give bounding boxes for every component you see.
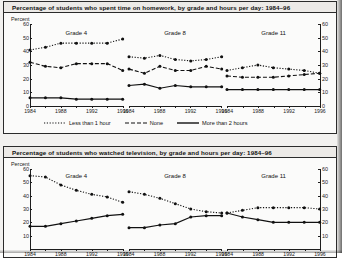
legend-label: Less than 1 hour	[69, 120, 111, 126]
data-point	[106, 98, 109, 101]
data-point	[272, 206, 275, 209]
data-point	[272, 66, 275, 69]
data-point	[257, 206, 260, 209]
data-point	[127, 190, 130, 193]
data-point	[75, 220, 78, 223]
y-axis-tick-label: 40	[23, 193, 29, 199]
y-axis-tick-label-right: 10	[322, 89, 328, 95]
data-point	[143, 193, 146, 196]
data-point	[226, 88, 229, 91]
legend-item: Less than 1 hour	[44, 120, 111, 126]
y-axis-tick-label: 20	[23, 76, 29, 82]
x-axis-tick-label: 1988	[154, 108, 166, 114]
data-point	[226, 212, 229, 215]
data-point	[29, 61, 32, 64]
data-point	[173, 69, 176, 72]
data-point	[204, 210, 207, 213]
x-axis-tick-mark	[243, 106, 244, 108]
data-point	[127, 226, 130, 229]
data-point	[288, 74, 291, 77]
data-point	[303, 88, 306, 91]
legend-swatch-solid	[177, 120, 199, 126]
data-point	[257, 76, 260, 79]
data-point	[303, 206, 306, 209]
y-axis-tick-label-right: 50	[322, 35, 328, 41]
data-point	[257, 64, 260, 67]
data-point	[303, 221, 306, 224]
data-point	[75, 62, 78, 65]
data-point	[220, 212, 223, 215]
data-point	[59, 66, 62, 69]
data-point	[204, 85, 207, 88]
data-point	[121, 38, 124, 41]
series-group	[30, 169, 123, 249]
y-axis-tick-label-right: 50	[322, 179, 328, 185]
scan-bottom-shadow	[0, 250, 342, 253]
data-point	[173, 222, 176, 225]
data-point	[257, 218, 260, 221]
series-group	[129, 24, 222, 106]
series-line-more-than-2-hours	[129, 216, 222, 228]
x-axis-tick-mark	[76, 106, 77, 108]
x-axis-tick-mark	[45, 106, 46, 108]
data-point	[272, 88, 275, 91]
data-point	[288, 206, 291, 209]
data-point	[121, 201, 124, 204]
x-axis-tick-label: 1988	[252, 108, 264, 114]
x-axis-tick-label: 1988	[55, 108, 67, 114]
series-group	[227, 24, 320, 106]
data-point	[106, 62, 109, 65]
y-axis-tick-label-right: 20	[322, 76, 328, 82]
x-axis-tick-mark	[305, 106, 306, 108]
data-point	[226, 74, 229, 77]
data-point	[173, 58, 176, 61]
data-point	[44, 176, 47, 179]
y-axis-tick-label-right: 60	[322, 21, 328, 27]
data-point	[288, 88, 291, 91]
data-point	[204, 65, 207, 68]
data-point	[44, 46, 47, 49]
data-point	[29, 96, 32, 99]
panel-grade-8: Grade 81984198819921996	[129, 169, 222, 249]
x-axis-tick-label: 1996	[314, 108, 326, 114]
series-group	[30, 24, 123, 106]
legend-swatch-dashed	[125, 120, 147, 126]
y-axis-tick-label: 20	[23, 219, 29, 225]
scan-edge-shadow	[337, 0, 342, 253]
data-point	[158, 224, 161, 227]
y-axis-tick-label: 10	[23, 89, 29, 95]
data-point	[44, 65, 47, 68]
figure-homework-plot: 01020304050600102030405060Grade 41984198…	[30, 24, 320, 106]
data-point	[241, 88, 244, 91]
y-axis-tick-label-right: 20	[322, 219, 328, 225]
y-axis-tick-label-right: 30	[322, 62, 328, 68]
data-point	[121, 213, 124, 216]
data-point	[241, 209, 244, 212]
panel-grade-4: Grade 41984198819921996	[30, 169, 123, 249]
y-axis-tick-label-right: 40	[322, 48, 328, 54]
data-point	[44, 96, 47, 99]
data-point	[90, 193, 93, 196]
data-point	[318, 88, 321, 91]
y-axis-tick-label: 50	[23, 35, 29, 41]
figure-television: Percentage of students who watched telev…	[3, 146, 337, 258]
y-axis-tick-label-right: 40	[322, 193, 328, 199]
data-point	[220, 68, 223, 71]
data-point	[106, 196, 109, 199]
data-point	[303, 73, 306, 76]
x-axis-tick-label: 1992	[86, 108, 98, 114]
legend-swatch-dotted	[44, 120, 66, 126]
data-point	[121, 98, 124, 101]
panel-grade-8: Grade 81984198819921996	[129, 24, 222, 106]
data-point	[158, 65, 161, 68]
data-point	[318, 208, 321, 211]
data-point	[75, 42, 78, 45]
y-axis-tick-label: 60	[23, 21, 29, 27]
x-axis-tick-label: 1984	[222, 108, 234, 114]
panel-grade-4: Grade 41984198819921996	[30, 24, 123, 106]
data-point	[59, 96, 62, 99]
figure-homework-title: Percentage of students who spent time on…	[12, 4, 290, 11]
series-group	[129, 169, 222, 249]
x-axis-tick-label: 1992	[283, 108, 295, 114]
